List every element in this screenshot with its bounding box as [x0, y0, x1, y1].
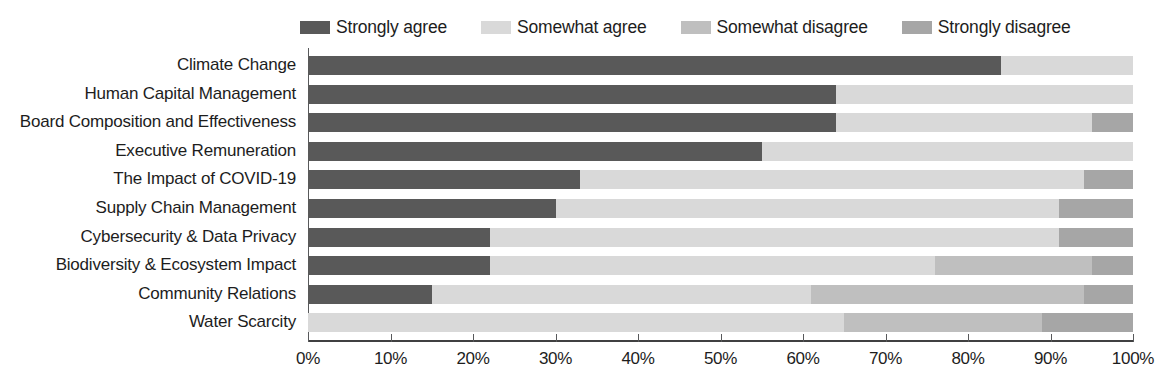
x-axis-tick-label: 90% — [1034, 348, 1067, 370]
category-label: Board Composition and Effectiveness — [0, 112, 296, 132]
category-label: Supply Chain Management — [0, 198, 296, 218]
bar-segment[interactable] — [1059, 199, 1133, 218]
bar-segment[interactable] — [308, 228, 490, 247]
bar-segment[interactable] — [1001, 56, 1133, 75]
bar-segment[interactable] — [308, 313, 844, 332]
legend-swatch-icon — [481, 21, 511, 34]
legend-item-label: Strongly agree — [336, 18, 447, 36]
x-axis-tick — [886, 334, 887, 342]
chart-legend: Strongly agreeSomewhat agreeSomewhat dis… — [300, 14, 1140, 40]
x-axis-tick-label: 10% — [374, 348, 407, 370]
x-axis-tick — [1133, 334, 1134, 342]
bar-segment[interactable] — [308, 56, 1001, 75]
bar-segment[interactable] — [308, 85, 836, 104]
bar-segment[interactable] — [836, 113, 1092, 132]
bar-segment[interactable] — [580, 170, 1083, 189]
legend-item[interactable]: Strongly agree — [300, 18, 447, 36]
plot-area — [308, 48, 1133, 348]
bar-segment[interactable] — [762, 142, 1133, 161]
x-axis-tick-labels: 0%10%20%30%40%50%60%70%80%90%100% — [308, 348, 1133, 378]
bar-row — [308, 113, 1133, 132]
legend-swatch-icon — [681, 21, 711, 34]
bar-segment[interactable] — [1084, 285, 1134, 304]
bar-segment[interactable] — [308, 285, 432, 304]
legend-swatch-icon — [902, 21, 932, 34]
bar-row — [308, 228, 1133, 247]
bar-segment[interactable] — [836, 85, 1133, 104]
category-axis-labels: Climate ChangeHuman Capital ManagementBo… — [0, 48, 302, 348]
x-axis-tick — [721, 334, 722, 342]
x-axis-tick — [556, 334, 557, 342]
legend-item[interactable]: Somewhat agree — [481, 18, 647, 36]
bar-segment[interactable] — [308, 256, 490, 275]
bar-row — [308, 142, 1133, 161]
bar-row — [308, 56, 1133, 75]
x-axis-tick — [638, 334, 639, 342]
bar-segment[interactable] — [308, 199, 556, 218]
category-label: Executive Remuneration — [0, 141, 296, 161]
bar-segment[interactable] — [490, 228, 1059, 247]
bar-segment[interactable] — [308, 142, 762, 161]
category-label: Biodiversity & Ecosystem Impact — [0, 255, 296, 275]
x-axis-tick-label: 50% — [704, 348, 737, 370]
bar-segment[interactable] — [490, 256, 936, 275]
x-axis-tick-label: 60% — [786, 348, 819, 370]
bar-segment[interactable] — [1092, 256, 1133, 275]
category-label: Climate Change — [0, 55, 296, 75]
bar-segment[interactable] — [1059, 228, 1133, 247]
x-axis-tick-label: 0% — [296, 348, 320, 370]
category-label: The Impact of COVID-19 — [0, 169, 296, 189]
bar-row — [308, 170, 1133, 189]
bar-segment[interactable] — [308, 113, 836, 132]
plot-wrapper: Climate ChangeHuman Capital ManagementBo… — [0, 48, 1158, 348]
x-axis-tick — [1051, 334, 1052, 342]
x-axis-tick-label: 30% — [539, 348, 572, 370]
stacked-bar-chart: Strongly agreeSomewhat agreeSomewhat dis… — [0, 0, 1158, 383]
bar-row — [308, 85, 1133, 104]
bar-segment[interactable] — [556, 199, 1059, 218]
legend-item[interactable]: Strongly disagree — [902, 18, 1071, 36]
x-axis-tick — [803, 334, 804, 342]
bar-row — [308, 256, 1133, 275]
x-axis-tick-label: 40% — [621, 348, 654, 370]
bar-segment[interactable] — [308, 170, 580, 189]
x-axis-tick-label: 20% — [456, 348, 489, 370]
x-axis-tick-label: 70% — [869, 348, 902, 370]
category-label: Water Scarcity — [0, 312, 296, 332]
x-axis-tick — [473, 334, 474, 342]
bar-row — [308, 199, 1133, 218]
x-axis-tick-label: 100% — [1112, 348, 1154, 370]
bar-segment[interactable] — [811, 285, 1083, 304]
legend-item-label: Somewhat agree — [517, 18, 647, 36]
bar-row — [308, 285, 1133, 304]
category-label: Cybersecurity & Data Privacy — [0, 227, 296, 247]
bar-segment[interactable] — [1042, 313, 1133, 332]
x-axis-tick — [968, 334, 969, 342]
bar-segment[interactable] — [432, 285, 812, 304]
bar-segment[interactable] — [1084, 170, 1134, 189]
legend-swatch-icon — [300, 21, 330, 34]
bar-segment[interactable] — [844, 313, 1042, 332]
bar-segment[interactable] — [1092, 113, 1133, 132]
x-axis-tick — [308, 334, 309, 342]
x-axis-tick — [391, 334, 392, 342]
category-label: Human Capital Management — [0, 84, 296, 104]
x-axis-tick-label: 80% — [951, 348, 984, 370]
legend-item-label: Somewhat disagree — [717, 18, 868, 36]
legend-item[interactable]: Somewhat disagree — [681, 18, 868, 36]
bar-row — [308, 313, 1133, 332]
bar-segment[interactable] — [935, 256, 1092, 275]
legend-item-label: Strongly disagree — [938, 18, 1071, 36]
category-label: Community Relations — [0, 284, 296, 304]
